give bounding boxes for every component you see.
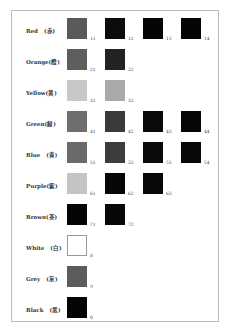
color-swatch — [67, 142, 87, 163]
color-code: 9 — [90, 284, 93, 289]
color-swatch — [105, 204, 125, 225]
color-code: 8 — [90, 253, 93, 258]
color-swatch — [105, 111, 125, 132]
color-code: 32 — [128, 98, 134, 103]
color-code: 13 — [166, 36, 172, 41]
color-label: White (白) — [26, 244, 62, 252]
color-swatch — [67, 266, 87, 287]
color-label: Red (赤) — [26, 27, 55, 35]
color-code: 71 — [90, 222, 96, 227]
color-row: Grey (灰)9 — [12, 261, 218, 292]
color-code: 41 — [90, 129, 96, 134]
color-chart-frame: Red (赤)11121314Orange(橙)2122Yellow(黄)313… — [11, 10, 219, 322]
color-swatch — [67, 173, 87, 194]
color-code: 63 — [166, 191, 172, 196]
color-row: Black (黒)0 — [12, 292, 218, 323]
color-code: 62 — [128, 191, 134, 196]
color-label: Black (黒) — [26, 306, 61, 314]
color-label: Orange(橙) — [26, 58, 60, 66]
color-code: 11 — [90, 36, 96, 41]
color-code: 52 — [128, 160, 134, 165]
color-code: 72 — [128, 222, 134, 227]
color-code: 21 — [90, 67, 96, 72]
color-code: 44 — [204, 129, 210, 134]
color-label: Blue (青) — [26, 151, 57, 159]
color-swatch — [105, 49, 125, 70]
color-row: Blue (青)51525354 — [12, 137, 218, 168]
color-code: 54 — [204, 160, 210, 165]
color-row: Green(緑)41424344 — [12, 106, 218, 137]
color-swatch — [181, 142, 201, 163]
color-swatch — [105, 173, 125, 194]
color-label: Brown(茶) — [26, 213, 57, 221]
color-code: 51 — [90, 160, 96, 165]
color-swatch — [105, 18, 125, 39]
color-label: Yellow(黄) — [26, 89, 57, 97]
color-code: 53 — [166, 160, 172, 165]
color-code: 61 — [90, 191, 96, 196]
color-swatch — [67, 111, 87, 132]
color-swatch — [181, 111, 201, 132]
color-swatch — [181, 18, 201, 39]
color-row: Purple(紫)616263 — [12, 168, 218, 199]
color-code: 31 — [90, 98, 96, 103]
color-swatch — [105, 142, 125, 163]
color-swatch — [143, 111, 163, 132]
color-swatch — [67, 235, 87, 256]
color-code: 42 — [128, 129, 134, 134]
color-swatch — [105, 80, 125, 101]
color-row: Yellow(黄)3132 — [12, 75, 218, 106]
color-label: Grey (灰) — [26, 275, 58, 283]
color-swatch — [67, 204, 87, 225]
color-row: Orange(橙)2122 — [12, 44, 218, 75]
color-swatch — [67, 49, 87, 70]
color-code: 12 — [128, 36, 134, 41]
color-swatch — [67, 297, 87, 318]
color-row: White (白)8 — [12, 230, 218, 261]
color-code: 0 — [90, 315, 93, 320]
color-swatch — [143, 142, 163, 163]
color-code: 22 — [128, 67, 134, 72]
color-label: Green(緑) — [26, 120, 56, 128]
color-swatch — [67, 18, 87, 39]
color-code: 14 — [204, 36, 210, 41]
color-row: Brown(茶)7172 — [12, 199, 218, 230]
color-code: 43 — [166, 129, 172, 134]
color-swatch — [67, 80, 87, 101]
color-swatch — [143, 18, 163, 39]
color-swatch — [143, 173, 163, 194]
color-label: Purple(紫) — [26, 182, 58, 190]
color-row: Red (赤)11121314 — [12, 13, 218, 44]
